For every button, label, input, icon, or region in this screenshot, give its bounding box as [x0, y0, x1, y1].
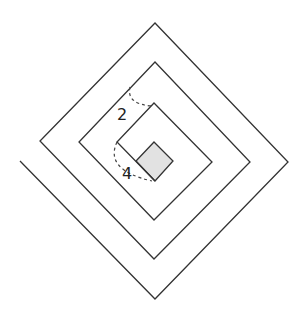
- spiral-diagram: 2 4: [0, 0, 307, 318]
- diagram-svg: 2 4: [0, 0, 307, 318]
- center-square: [136, 142, 173, 181]
- angle-label-4: 4: [122, 164, 132, 183]
- angle-arc-2: [129, 87, 152, 106]
- angle-label-2: 2: [117, 105, 127, 124]
